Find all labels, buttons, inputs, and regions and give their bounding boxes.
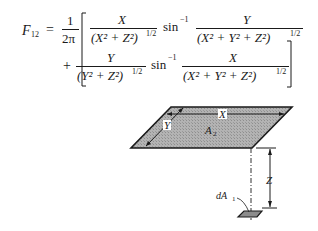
label-a2-subscript: 2 bbox=[213, 130, 217, 138]
geometry-diagram: X Y A 2 Z dA 1 bbox=[0, 0, 318, 231]
area-element-da1 bbox=[238, 211, 262, 217]
label-x: X bbox=[218, 108, 227, 120]
label-da1-subscript: 1 bbox=[232, 195, 236, 203]
label-da1: dA bbox=[216, 190, 228, 201]
z-arrow-top-icon bbox=[268, 149, 272, 155]
da1-leader-line bbox=[237, 198, 249, 212]
z-arrow-bottom-icon bbox=[268, 201, 272, 207]
label-z: Z bbox=[266, 174, 273, 186]
label-a2: A bbox=[204, 124, 212, 136]
